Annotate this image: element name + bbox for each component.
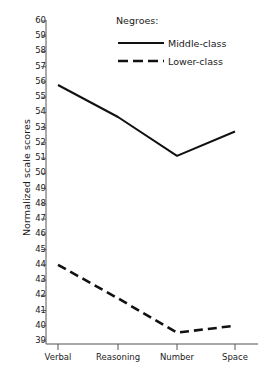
x-axis-tick-label: Reasoning: [96, 352, 140, 362]
legend-swatches: [118, 43, 164, 61]
legend-label-middle-class: Middle-class: [168, 38, 226, 49]
series-line-middle-class: [58, 85, 235, 156]
axis-lines: [46, 20, 258, 344]
plot-area: [0, 0, 265, 376]
line-chart: Normalized scale scores 6059585756555453…: [0, 0, 265, 376]
legend-label-lower-class: Lower-class: [168, 56, 223, 67]
series-line-lower-class: [58, 265, 235, 333]
series-lines: [58, 85, 235, 333]
x-axis-tick-label: Verbal: [45, 352, 72, 362]
legend-title: Negroes:: [116, 15, 159, 26]
x-axis-tick-label: Space: [222, 352, 248, 362]
x-axis-tick-label: Number: [160, 352, 194, 362]
y-axis-ticks: [41, 21, 46, 341]
x-axis-ticks: [58, 344, 235, 350]
